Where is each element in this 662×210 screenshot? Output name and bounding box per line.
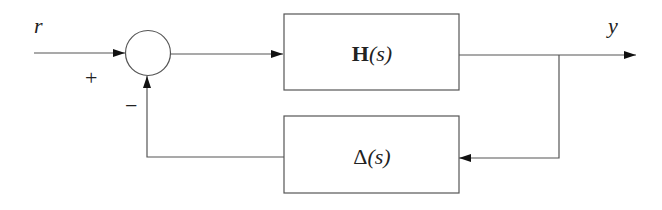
feedback-return-arrow [147,76,284,157]
feedback-block-label: Δ(s) [353,144,390,169]
feedback-branch-arrow [459,55,559,158]
input-label-r: r [34,13,43,38]
forward-block-label: H(s) [352,41,392,66]
input-signal: r [34,13,125,53]
forward-block-H: H(s) [284,14,459,90]
minus-sign: − [125,93,137,118]
output-signal: y [459,13,636,55]
feedback-block-delta: Δ(s) [284,116,459,193]
plus-sign: + [85,65,97,90]
block-diagram: r + − H(s) y Δ(s) [0,0,662,210]
feedback-block-label-arg: (s) [367,144,390,169]
summing-junction: + − [85,31,171,119]
output-label-y: y [606,13,618,38]
forward-block-label-main: H [352,41,369,66]
forward-block-label-arg: (s) [369,41,392,66]
summing-circle [126,31,171,76]
feedback-block-label-main: Δ [353,144,367,169]
